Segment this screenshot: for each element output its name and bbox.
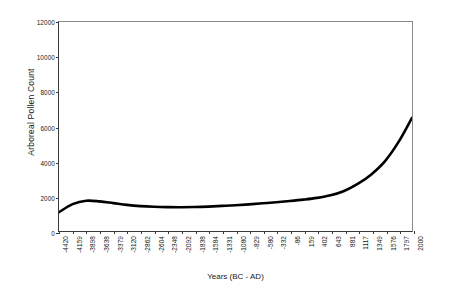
x-axis-tick-mark [414, 231, 415, 234]
x-axis-tick-mark [237, 231, 238, 234]
x-axis-tick-label: 881 [349, 236, 356, 247]
x-axis-tick-mark [155, 231, 156, 234]
x-axis-tick-mark [73, 231, 74, 234]
x-axis-tick-mark [100, 231, 101, 234]
x-axis-tick-label: 1797 [403, 236, 410, 251]
x-axis-tick-mark [196, 231, 197, 234]
x-axis-tick-label: 1117 [362, 236, 369, 250]
x-axis-tick-label: -4420 [62, 236, 69, 253]
x-axis-tick-label: -1838 [199, 236, 206, 253]
x-axis-tick-label: -580 [267, 236, 274, 249]
x-axis-tick-mark [114, 231, 115, 234]
x-axis-tick-mark [332, 231, 333, 234]
x-axis-tick-mark [223, 231, 224, 234]
x-axis-tick-mark [141, 231, 142, 234]
x-axis-tick-label: -3898 [89, 236, 96, 253]
x-axis-tick-label: -86 [294, 236, 301, 246]
x-axis-tick-mark [59, 231, 60, 234]
x-axis-tick-label: -1080 [240, 236, 247, 253]
x-axis-tick-mark [127, 231, 128, 234]
x-axis-tick-mark [277, 231, 278, 234]
x-axis-tick-mark [400, 231, 401, 234]
y-axis-title: Arboreal Pollen Count [26, 12, 36, 212]
y-axis-tick-label: 8000 [40, 89, 59, 96]
x-axis-tick-label: 402 [321, 236, 328, 247]
x-axis-tick-mark [305, 231, 306, 234]
x-axis-tick-mark [86, 231, 87, 234]
x-axis-tick-label: -1331 [226, 236, 233, 253]
y-axis-tick-label: 6000 [40, 124, 59, 131]
x-axis-tick-label: -829 [253, 236, 260, 249]
x-axis-tick-label: -2092 [185, 236, 192, 253]
x-axis-tick-mark [264, 231, 265, 234]
x-axis-tick-label: 643 [335, 236, 342, 247]
x-axis-tick-label: -4159 [76, 236, 83, 253]
x-axis-tick-mark [346, 231, 347, 234]
x-axis-tick-label: 1576 [390, 236, 397, 251]
x-axis-tick-mark [182, 231, 183, 234]
x-axis-tick-mark [168, 231, 169, 234]
x-axis-tick-label: 1349 [376, 236, 383, 251]
x-axis-tick-label: -2862 [144, 236, 151, 253]
y-axis-tick-label: 12000 [37, 19, 59, 26]
pollen-count-line-series [59, 22, 412, 231]
x-axis-tick-mark [387, 231, 388, 234]
y-axis-tick-label: 0 [51, 230, 59, 237]
x-axis-tick-mark [373, 231, 374, 234]
x-axis-tick-mark [359, 231, 360, 234]
x-axis-tick-mark [291, 231, 292, 234]
y-axis-tick-label: 4000 [40, 159, 59, 166]
x-axis-tick-label: -2604 [158, 236, 165, 253]
x-axis-title: Years (BC - AD) [58, 272, 413, 281]
y-axis-tick-label: 2000 [40, 194, 59, 201]
plot-area: 020004000600080001000012000-4420-4159-38… [58, 21, 413, 232]
x-axis-tick-label: 2000 [417, 236, 424, 251]
x-axis-tick-label: -2348 [171, 236, 178, 253]
x-axis-tick-label: -3379 [117, 236, 124, 253]
x-axis-tick-mark [250, 231, 251, 234]
x-axis-tick-label: 159 [308, 236, 315, 247]
x-axis-tick-label: -3638 [103, 236, 110, 253]
x-axis-tick-label: -3120 [130, 236, 137, 253]
x-axis-tick-label: -332 [280, 236, 287, 249]
x-axis-tick-mark [209, 231, 210, 234]
x-axis-tick-label: -1584 [212, 236, 219, 253]
chart-figure: Arboreal Pollen Count 020004000600080001… [0, 0, 450, 299]
x-axis-tick-mark [318, 231, 319, 234]
y-axis-tick-label: 10000 [37, 54, 59, 61]
